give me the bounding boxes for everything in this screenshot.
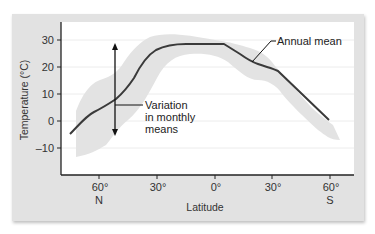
y-tick-30: 30 xyxy=(42,34,54,46)
x-tick-s-label: S xyxy=(326,194,333,206)
x-tick-0: 0° xyxy=(211,181,222,193)
x-tick-n-label: N xyxy=(95,194,103,206)
x-axis-title: Latitude xyxy=(186,201,224,213)
temperature-latitude-chart: 30 20 10 0 –10 Temperature (°C) 60° N 30… xyxy=(0,0,375,234)
x-tick-30n: 30° xyxy=(150,181,167,193)
y-tick-10: 10 xyxy=(42,88,54,100)
variation-label-line2: in monthly xyxy=(145,111,196,123)
y-tick-minus-10: –10 xyxy=(36,142,54,154)
y-tick-20: 20 xyxy=(42,61,54,73)
x-tick-60n: 60° xyxy=(92,181,109,193)
x-tick-60s: 60° xyxy=(323,181,340,193)
x-tick-30s: 30° xyxy=(265,181,282,193)
variation-label-line3: means xyxy=(145,123,179,135)
y-axis-title: Temperature (°C) xyxy=(18,60,30,141)
y-tick-0: 0 xyxy=(48,115,54,127)
annual-mean-label: Annual mean xyxy=(277,35,342,47)
variation-label-line1: Variation xyxy=(145,99,188,111)
